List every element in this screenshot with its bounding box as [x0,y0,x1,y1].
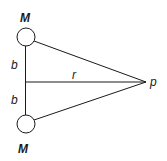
top-mass-to-p-line [34,41,146,82]
bottom-mass-circle [17,115,35,133]
bottom-mass-label: M [18,142,29,156]
point-p-label: p [149,75,157,89]
diagram-canvas: M M b b r p [0,0,167,161]
gravity-two-mass-diagram: M M b b r p [0,0,167,161]
bottom-mass-to-p-line [34,82,146,120]
bottom-b-label: b [11,93,18,107]
distance-r-label: r [72,68,77,82]
top-mass-circle [17,28,35,46]
top-mass-label: M [20,11,31,25]
top-b-label: b [11,58,18,72]
